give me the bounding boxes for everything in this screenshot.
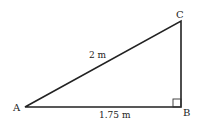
vertex-label-b: B	[183, 107, 190, 118]
triangle-diagram: A B C 2 m 1.75 m	[0, 0, 200, 125]
vertex-label-a: A	[12, 102, 21, 113]
hypotenuse-length-label: 2 m	[89, 50, 107, 60]
triangle-abc	[25, 21, 181, 107]
base-length-label: 1.75 m	[99, 110, 131, 120]
right-angle-marker	[173, 99, 181, 107]
vertex-label-c: C	[176, 9, 184, 20]
